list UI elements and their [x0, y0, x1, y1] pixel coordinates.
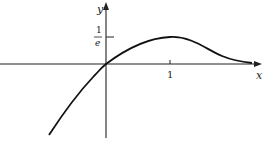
x-axis-arrow-icon	[254, 61, 262, 67]
x-tick-label-1: 1	[167, 69, 173, 80]
y-tick-label-denominator: e	[95, 38, 100, 48]
x-axis-label: x	[256, 69, 263, 82]
y-tick-label-numerator: 1	[96, 25, 102, 35]
curve-x-exp-neg-x	[49, 37, 252, 135]
y-axis-arrow-icon	[103, 2, 109, 10]
y-axis-label: y	[96, 3, 104, 16]
chart-plot: y x 1 1 e	[0, 0, 264, 150]
